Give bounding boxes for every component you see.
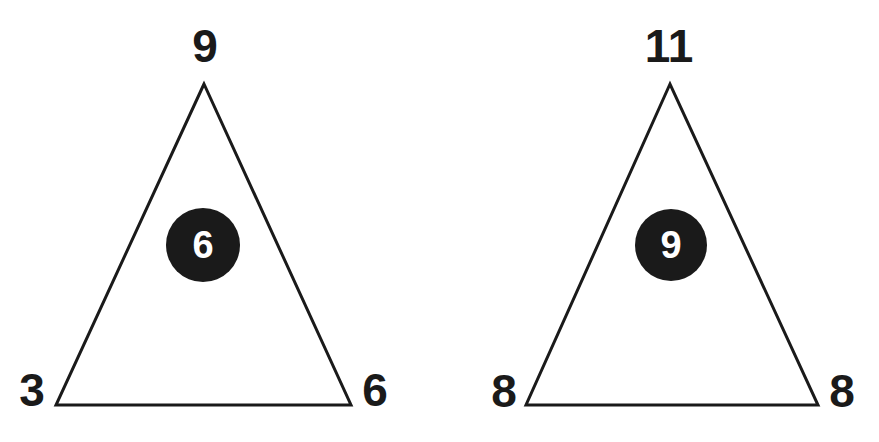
triangle-2-bottom-right-value: 8 (829, 365, 855, 417)
triangle-1-bottom-left-value: 3 (19, 364, 45, 416)
triangle-2-top-value: 11 (645, 20, 694, 72)
puzzle-canvas: 6 9 3 6 9 11 8 8 (0, 0, 879, 442)
triangle-1-bottom-right-value: 6 (362, 364, 388, 416)
triangle-2-center-value: 9 (660, 224, 681, 266)
triangle-2: 9 11 8 8 (491, 20, 855, 417)
triangle-2-bottom-left-value: 8 (491, 365, 517, 417)
triangle-1-center-value: 6 (192, 224, 213, 266)
triangle-1: 6 9 3 6 (19, 20, 388, 416)
triangle-1-top-value: 9 (192, 20, 218, 72)
